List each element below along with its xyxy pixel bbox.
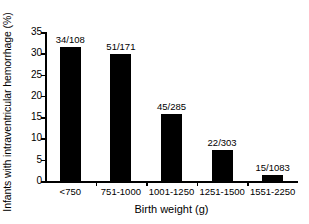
y-tick-label: 30 <box>31 47 42 58</box>
y-tick-label: 20 <box>31 90 42 101</box>
bar-value-label: 22/303 <box>196 137 248 148</box>
x-category-label: 1551-2250 <box>241 186 305 197</box>
bar-value-label: 51/171 <box>95 41 147 52</box>
y-tick-label: 0 <box>36 175 42 186</box>
y-tick-label: 25 <box>31 69 42 80</box>
y-axis-line <box>45 32 47 181</box>
bar-value-label: 34/108 <box>44 34 96 45</box>
bar-value-label: 15/1083 <box>247 162 299 173</box>
bar <box>110 54 131 181</box>
y-tick-label: 10 <box>31 132 42 143</box>
plot-area: 05101520253035 34/10851/17145/28522/3031… <box>45 32 298 181</box>
bar <box>262 175 283 181</box>
bar-value-label: 45/285 <box>146 101 198 112</box>
y-axis-title: Infants with intraventricular hemorrhage… <box>0 0 14 224</box>
x-axis-title: Birth weight (g) <box>45 203 298 215</box>
x-axis-line <box>45 181 298 183</box>
y-tick-label: 35 <box>31 26 42 37</box>
bar <box>161 114 182 181</box>
y-tick-label: 5 <box>36 154 42 165</box>
bar <box>60 47 81 181</box>
chart-figure: Infants with intraventricular hemorrhage… <box>0 0 309 224</box>
y-tick-label: 15 <box>31 111 42 122</box>
bar <box>212 150 233 181</box>
